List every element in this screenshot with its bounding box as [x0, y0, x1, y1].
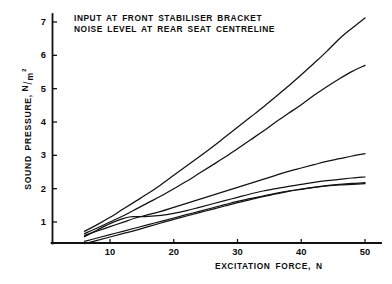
x-tick-label: 20: [164, 246, 184, 257]
plot-area: [0, 0, 392, 284]
x-tick-label: 30: [228, 246, 248, 257]
data-curve-curve-2: [85, 65, 366, 233]
y-axis-label-name: SOUND PRESSURE,: [23, 94, 33, 190]
x-tick-label: 50: [355, 246, 375, 257]
y-tick-label: 6: [32, 49, 46, 60]
x-tick-label: 40: [291, 246, 311, 257]
x-axis-label: EXCITATION FORCE, N: [215, 261, 323, 271]
annotation-line-1: INPUT AT FRONT STABILISER BRACKET: [74, 13, 275, 24]
annotation-line-2: NOISE LEVEL AT REAR SEAT CENTRELINE: [74, 24, 275, 35]
chart-figure: INPUT AT FRONT STABILISER BRACKET NOISE …: [0, 0, 392, 284]
y-tick-label: 3: [32, 149, 46, 160]
y-tick-label: 5: [32, 83, 46, 94]
y-axis-units-numerator: N: [20, 85, 30, 92]
y-axis-units-exponent: 2: [21, 68, 27, 72]
y-axis-units-denominator: m2: [24, 68, 35, 80]
axes: [52, 14, 381, 244]
x-tick-label: 10: [100, 246, 120, 257]
y-tick-label: 7: [32, 16, 46, 27]
chart-annotation: INPUT AT FRONT STABILISER BRACKET NOISE …: [74, 13, 275, 35]
data-curves: [85, 18, 366, 244]
y-axis-units-denominator-base: m: [25, 72, 35, 80]
data-curve-curve-3: [85, 154, 366, 236]
y-tick-label: 4: [32, 116, 46, 127]
data-curve-curve-1: [85, 18, 366, 231]
y-tick-label: 2: [32, 183, 46, 194]
y-tick-label: 1: [32, 216, 46, 227]
